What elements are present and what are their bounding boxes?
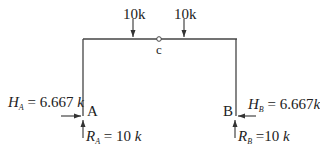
rb-unit: k: [283, 128, 290, 144]
hb-symbol: H: [248, 96, 259, 112]
support-a-label: A: [87, 104, 98, 119]
hinge-label: c: [156, 43, 162, 56]
rb-value: =10: [252, 128, 283, 144]
load-label-left: 10k: [123, 7, 146, 22]
hb-value: = 6.667: [264, 96, 314, 112]
ha-symbol: H: [8, 94, 19, 110]
support-b-label: B: [223, 104, 233, 119]
rb-symbol: R: [238, 128, 247, 144]
ha-unit: k: [77, 94, 84, 110]
ra-symbol: R: [86, 128, 95, 144]
reaction-ha-label: HA = 6.667 k: [8, 95, 84, 112]
hb-unit: k: [313, 96, 320, 112]
ra-unit: k: [135, 128, 142, 144]
hinge-c-icon: [157, 37, 162, 42]
ra-value: = 10: [100, 128, 135, 144]
ha-value: = 6.667: [24, 94, 77, 110]
reaction-rb-label: RB =10 k: [238, 129, 290, 146]
reaction-hb-label: HB = 6.667k: [248, 97, 320, 114]
reaction-ra-label: RA = 10 k: [86, 129, 141, 146]
load-label-right: 10k: [174, 7, 197, 22]
